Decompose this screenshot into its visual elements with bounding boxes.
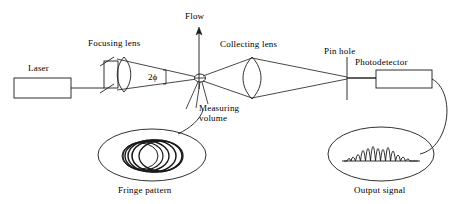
label-focusing-lens: Focusing lens bbox=[88, 38, 140, 48]
label-photodetector: Photodetector bbox=[355, 57, 408, 67]
ldv-schematic-figure: Laser Focusing lens Flow 2ϕ Collecting l… bbox=[0, 0, 454, 204]
collecting-beam-cone-left bbox=[203, 58, 252, 98]
focusing-lens bbox=[117, 57, 131, 92]
fringe-pattern-inset bbox=[98, 129, 206, 181]
converging-beam-cone-right bbox=[252, 58, 347, 98]
label-output-signal: Output signal bbox=[354, 185, 405, 195]
label-measuring-volume-line2: volume bbox=[199, 113, 227, 123]
laser-source bbox=[14, 78, 71, 98]
label-beam-angle: 2ϕ bbox=[148, 72, 157, 82]
label-measuring-volume-line1: Measuring bbox=[199, 103, 239, 113]
label-collecting-lens: Collecting lens bbox=[220, 39, 277, 49]
diagram-canvas bbox=[0, 0, 454, 204]
doppler-burst-trace bbox=[344, 147, 418, 162]
beam-angle-bracket bbox=[163, 70, 166, 84]
collecting-lens bbox=[243, 57, 261, 99]
output-signal-inset bbox=[328, 127, 434, 181]
label-fringe-pattern: Fringe pattern bbox=[118, 185, 172, 195]
photodetector bbox=[376, 70, 432, 88]
label-laser: Laser bbox=[28, 63, 49, 73]
measuring-volume bbox=[195, 74, 206, 82]
signal-cable bbox=[420, 79, 447, 154]
label-flow: Flow bbox=[185, 11, 204, 21]
label-pin-hole: Pin hole bbox=[324, 46, 355, 56]
